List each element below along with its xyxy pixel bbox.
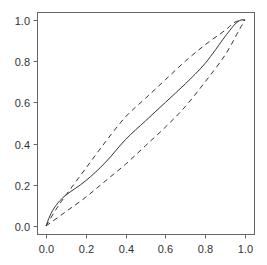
y-tick-label: 1.0 xyxy=(15,15,30,27)
y-axis: 0.00.20.40.60.81.0 xyxy=(15,15,38,233)
x-tick-label: 0.8 xyxy=(198,243,213,255)
x-tick-label: 1.0 xyxy=(238,243,253,255)
x-tick-label: 0.6 xyxy=(158,243,173,255)
y-tick-label: 0.0 xyxy=(15,221,30,233)
x-tick-label: 0.0 xyxy=(39,243,54,255)
y-tick-label: 0.8 xyxy=(15,56,30,68)
y-tick-label: 0.4 xyxy=(15,139,30,151)
series-group xyxy=(46,20,245,226)
x-tick-label: 0.4 xyxy=(119,243,134,255)
series-line-estimate xyxy=(46,20,245,226)
x-axis: 0.00.20.40.60.81.0 xyxy=(39,235,253,256)
x-tick-label: 0.2 xyxy=(79,243,94,255)
chart-canvas: 0.00.20.40.60.81.0 0.00.20.40.60.81.0 xyxy=(0,0,267,265)
y-tick-label: 0.2 xyxy=(15,180,30,192)
y-tick-label: 0.6 xyxy=(15,97,30,109)
plot-frame xyxy=(38,13,255,235)
